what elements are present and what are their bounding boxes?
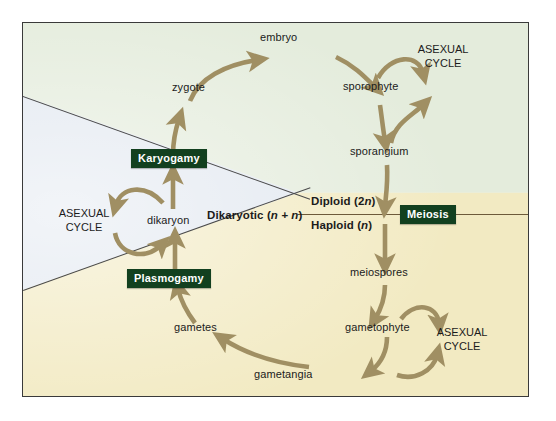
asexual-cycle-dikaryon-line2: CYCLE: [41, 221, 127, 235]
asexual-cycle-gametophyte-line2: CYCLE: [419, 340, 505, 354]
asexual-cycle-gametophyte-line1: ASEXUAL: [419, 326, 505, 340]
asexual-cycle-sporophyte: ASEXUAL CYCLE: [400, 43, 486, 71]
arrow-gametophyte-to-gametangia: [371, 337, 387, 371]
gametophyte-label: gametophyte: [345, 321, 410, 334]
karyogamy-chip[interactable]: Karyogamy: [131, 149, 207, 168]
arrow-dikaryon-asexual-lower: [115, 233, 161, 254]
meiospores-label: meiospores: [350, 266, 408, 279]
asexual-cycle-sporophyte-line2: CYCLE: [400, 57, 486, 71]
arrow-dikaryon-asexual-upper: [116, 190, 163, 205]
arrow-gametes-to-plasmogamy: [178, 289, 195, 323]
arrow-gametophyte-asexual-lower: [397, 355, 437, 377]
arrow-sporophyte-asexual-lower: [391, 105, 423, 143]
gametangia-label: gametangia: [254, 368, 313, 381]
arrow-gametangia-to-gametes: [223, 339, 309, 367]
asexual-cycle-sporophyte-line1: ASEXUAL: [400, 43, 486, 57]
figure-canvas: embryo zygote sporophyte sporangium meio…: [0, 0, 556, 421]
asexual-cycle-dikaryon: ASEXUAL CYCLE: [41, 207, 127, 235]
dikaryon-label: dikaryon: [147, 214, 189, 227]
diagram-frame: embryo zygote sporophyte sporangium meio…: [22, 22, 529, 397]
meiosis-chip[interactable]: Meiosis: [400, 205, 456, 224]
sporangium-label: sporangium: [350, 145, 408, 158]
diploid-ploidy-label: Diploid (2n): [311, 195, 375, 209]
asexual-cycle-dikaryon-line1: ASEXUAL: [41, 207, 127, 221]
arrow-sporangium-to-meiosis: [385, 165, 387, 206]
plasmogamy-chip[interactable]: Plasmogamy: [127, 269, 211, 288]
arrow-meiospores-to-gametophyte: [375, 285, 385, 319]
gametes-label: gametes: [174, 321, 217, 334]
asexual-cycle-gametophyte: ASEXUAL CYCLE: [419, 326, 505, 354]
haploid-ploidy-label: Haploid (n): [311, 219, 372, 233]
dikaryotic-ploidy-label: Dikaryotic (n + n): [207, 209, 302, 223]
embryo-label: embryo: [260, 31, 297, 44]
sporophyte-label: sporophyte: [343, 80, 398, 93]
zygote-label: zygote: [172, 81, 205, 94]
arrow-sporophyte-to-sporangium: [380, 105, 385, 141]
